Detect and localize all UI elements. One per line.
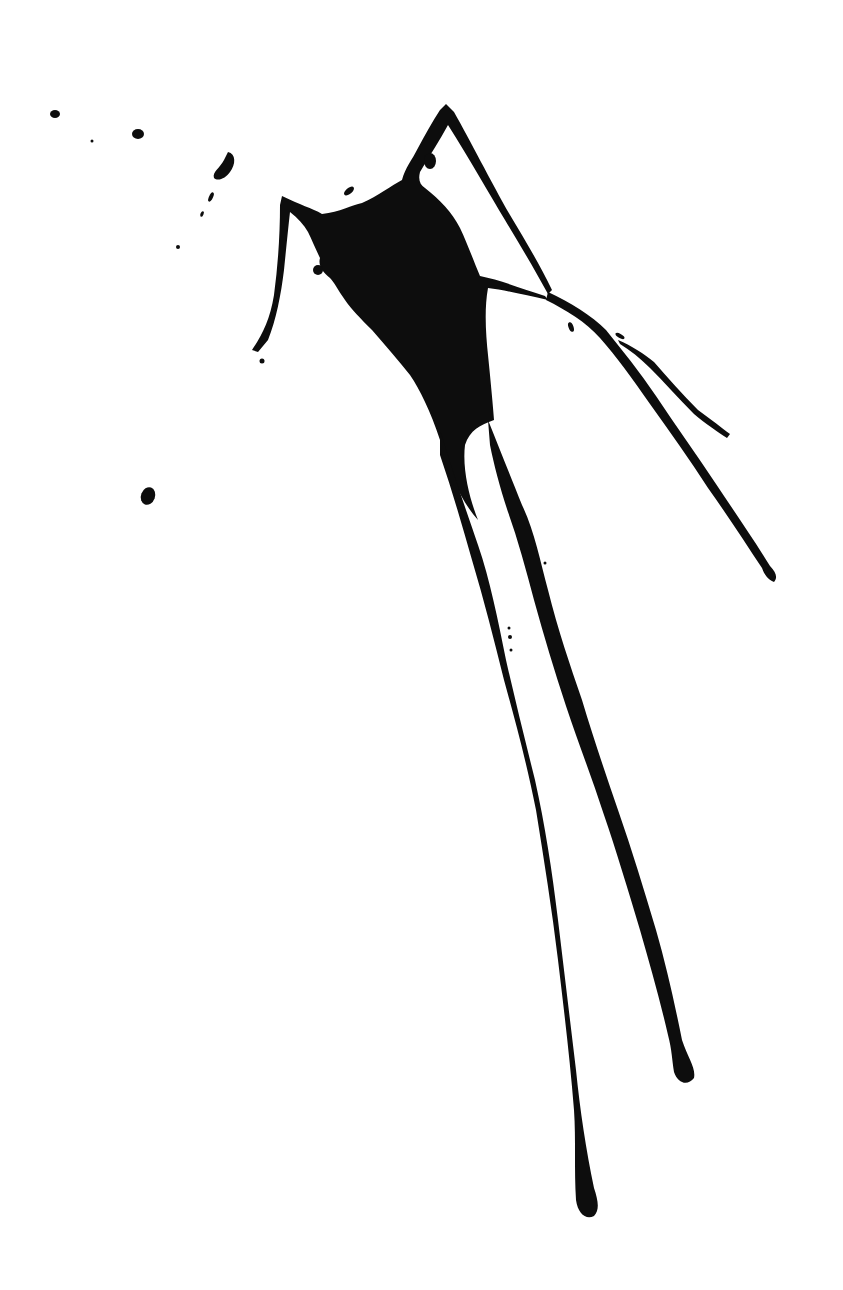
droplet xyxy=(50,110,60,118)
droplet xyxy=(260,359,265,364)
droplet xyxy=(510,649,513,652)
droplet xyxy=(544,562,547,565)
droplet xyxy=(508,627,511,630)
left-drip xyxy=(440,430,598,1217)
main-blob xyxy=(252,104,552,520)
ink-splatter-canvas xyxy=(0,0,843,1290)
droplet xyxy=(199,211,204,218)
right-diagonal-line xyxy=(546,292,776,582)
droplet xyxy=(132,129,144,139)
droplet xyxy=(424,153,436,169)
droplet xyxy=(207,192,215,203)
droplet xyxy=(176,245,180,249)
droplet xyxy=(91,140,94,143)
droplet xyxy=(342,185,355,197)
droplet xyxy=(567,321,575,332)
droplet xyxy=(313,265,323,275)
ink-splatter xyxy=(0,0,843,1290)
droplet xyxy=(214,152,235,180)
droplet xyxy=(508,635,512,639)
right-drip xyxy=(488,420,694,1083)
droplet xyxy=(615,332,626,340)
droplet xyxy=(138,485,157,507)
